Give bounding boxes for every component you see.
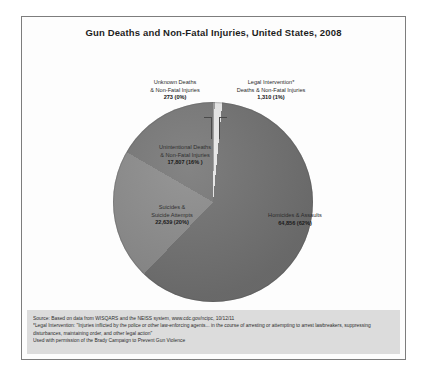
leader-line-unknown [211, 117, 212, 139]
slice-label-suicides: Suicides & Suicide Attempts 22,639 (20%) [126, 204, 218, 227]
leader-line-legal-intervention [219, 117, 220, 139]
slice-label-unknown-line2: & Non-Fatal Injuries [130, 87, 220, 95]
footnote-source: Source: Based on data from WISQARS and t… [33, 315, 394, 322]
slice-label-unknown-line1: Unknown Deaths [130, 79, 220, 87]
chart-figure: Gun Deaths and Non-Fatal Injuries, Unite… [21, 16, 406, 360]
slice-label-unintentional-line1: Unintentional Deaths [133, 144, 237, 152]
slice-label-unintentional: Unintentional Deaths & Non-Fatal Injurie… [133, 144, 237, 167]
footnote-definition: *Legal Intervention: "Injuries inflicted… [33, 322, 394, 337]
slice-label-legal-line1: Legal Intervention* [221, 79, 321, 87]
slice-value-unknown: 273 (0%) [130, 94, 220, 102]
slice-label-unknown: Unknown Deaths & Non-Fatal Injuries 273 … [130, 79, 220, 102]
slice-label-homicides: Homicides & Assaults 64,856 (62%) [247, 212, 343, 227]
leader-tick-unknown [204, 117, 212, 118]
pie-chart [113, 102, 313, 302]
leader-tick-legal-intervention [219, 117, 227, 118]
footnote-permission: Used with permission of the Brady Campai… [33, 337, 394, 344]
slice-label-suicides-line1: Suicides & [126, 204, 218, 212]
slice-label-suicides-line2: Suicide Attempts [126, 212, 218, 220]
footnote-band: Source: Based on data from WISQARS and t… [27, 310, 400, 354]
slice-label-legal-intervention: Legal Intervention* Deaths & Non-Fatal I… [221, 79, 321, 102]
slice-label-legal-line2: Deaths & Non-Fatal Injuries [221, 87, 321, 95]
slice-value-homicides: 64,856 (62%) [247, 220, 343, 228]
slice-label-homicides-line1: Homicides & Assaults [247, 212, 343, 220]
pie-chart-area: Unknown Deaths & Non-Fatal Injuries 273 … [22, 17, 406, 307]
slice-value-suicides: 22,639 (20%) [126, 219, 218, 227]
slice-value-unintentional: 17,807 (16% ) [133, 159, 237, 167]
slice-label-unintentional-line2: & Non-Fatal Injuries [133, 152, 237, 160]
slice-value-legal-intervention: 1,310 (1%) [221, 94, 321, 102]
